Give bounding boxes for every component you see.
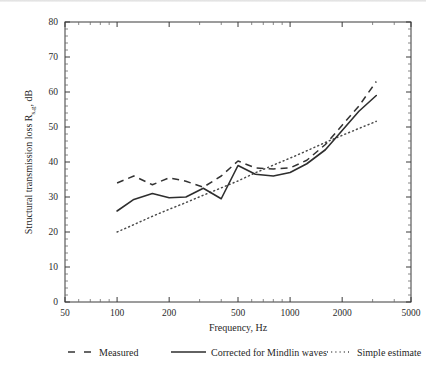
y-tick-label: 40 [49, 157, 59, 167]
y-axis-title-main: Structural transmission loss R [23, 114, 34, 234]
x-axis-title: Frequency, Hz [209, 322, 268, 333]
x-tick-label: 100 [110, 308, 125, 318]
legend-label-simple: Simple estimate [357, 347, 422, 358]
chart-svg: 01020304050607080 5010020050010002000500… [0, 0, 426, 371]
y-tick-label: 20 [49, 227, 59, 237]
y-axis-ticks: 01020304050607080 [49, 17, 412, 307]
y-axis-title: Structural transmission loss Rs,g, dB [23, 89, 37, 234]
plot-frame [65, 22, 411, 302]
x-tick-label: 5000 [402, 308, 421, 318]
y-tick-label: 60 [49, 87, 59, 97]
legend-label-corrected: Corrected for Mindlin waves [211, 347, 327, 358]
x-tick-label: 500 [231, 308, 246, 318]
series-corrected-mindlin [117, 96, 376, 212]
x-tick-label: 2000 [333, 308, 352, 318]
legend-label-measured: Measured [99, 347, 138, 358]
x-axis-ticks: 50100200500100020005000 [60, 22, 421, 318]
chart-figure: 01020304050607080 5010020050010002000500… [0, 0, 426, 371]
x-tick-label: 200 [162, 308, 177, 318]
y-tick-label: 0 [53, 297, 58, 307]
x-tick-label: 50 [60, 308, 70, 318]
y-tick-label: 10 [49, 262, 59, 272]
y-tick-label: 30 [49, 192, 59, 202]
chart-canvas: 01020304050607080 5010020050010002000500… [0, 0, 426, 371]
chart-legend: Measured Corrected for Mindlin waves Sim… [68, 347, 422, 358]
series-measured [117, 82, 376, 188]
y-tick-label: 80 [49, 17, 59, 27]
x-tick-label: 1000 [281, 308, 300, 318]
series-simple-estimate [117, 121, 376, 232]
y-tick-label: 50 [49, 122, 59, 132]
data-series-layer [117, 82, 376, 233]
y-axis-title-tail: , dB [23, 89, 34, 106]
y-tick-label: 70 [49, 52, 59, 62]
